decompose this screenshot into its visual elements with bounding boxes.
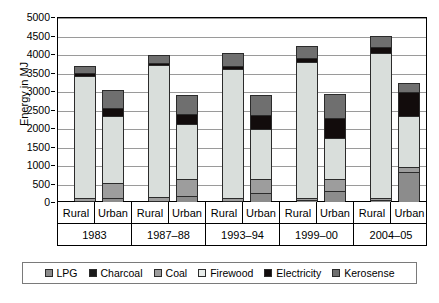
y-axis-tick (51, 54, 55, 55)
bar-segment[interactable] (223, 54, 243, 66)
x-axis-group-label: 1987–88 (132, 224, 206, 245)
stacked-bar[interactable] (222, 53, 244, 201)
legend-swatch-icon (198, 269, 206, 277)
y-axis-tick (51, 147, 55, 148)
x-axis-group-label: 2004–05 (354, 224, 428, 245)
bar-segment[interactable] (251, 115, 271, 128)
legend-label: LPG (57, 267, 78, 279)
y-axis-tick-label: 3000 (27, 86, 50, 96)
bar-segment[interactable] (297, 47, 317, 57)
legend-label: Coal (166, 267, 188, 279)
bar-segment[interactable] (399, 116, 419, 167)
y-axis-tick-label: 4500 (27, 31, 50, 41)
x-axis-category-label: Urban (169, 202, 206, 223)
bar-segment[interactable] (75, 76, 95, 198)
x-axis-group-label: 1999–00 (280, 224, 354, 245)
x-axis-category-label: Rural (132, 202, 169, 223)
chart-legend: LPGCharcoalCoalFirewoodElectricityKerose… (22, 262, 417, 284)
x-axis-category-label: Rural (206, 202, 243, 223)
stacked-bar[interactable] (324, 94, 346, 201)
stacked-bar[interactable] (148, 55, 170, 201)
legend-swatch-icon (89, 269, 97, 277)
legend-label: Charcoal (101, 267, 143, 279)
legend-item[interactable]: Kerosense (332, 267, 394, 279)
bar-segment[interactable] (177, 114, 197, 124)
y-axis-tick-labels: 5000450040003500300025002000150010005000 (0, 17, 55, 202)
y-axis-tick-label: 2500 (27, 105, 50, 115)
y-axis-tick (51, 184, 55, 185)
bar-segment[interactable] (223, 69, 243, 198)
bar-segment[interactable] (251, 129, 271, 179)
bar-segment[interactable] (399, 84, 419, 93)
bar-segment[interactable] (251, 179, 271, 193)
bar-segment[interactable] (177, 96, 197, 114)
legend-item[interactable]: Coal (154, 267, 188, 279)
y-axis-tick (51, 202, 55, 203)
stacked-bar[interactable] (102, 90, 124, 201)
y-axis-tick (51, 110, 55, 111)
bar-segment[interactable] (149, 65, 169, 197)
x-axis-category-label: Urban (95, 202, 132, 223)
y-axis-tick-label: 4000 (27, 49, 50, 59)
stacked-bar[interactable] (74, 66, 96, 201)
stacked-bar[interactable] (250, 95, 272, 201)
bar-segment[interactable] (325, 118, 345, 139)
legend-item[interactable]: Charcoal (89, 267, 143, 279)
y-axis-tick-label: 2000 (27, 123, 50, 133)
y-axis-tick-label: 500 (32, 179, 50, 189)
x-axis-group-label: 1983 (58, 224, 132, 245)
bar-segment[interactable] (371, 53, 391, 198)
y-axis-tick (51, 91, 55, 92)
bar-series-container (58, 18, 426, 201)
x-axis-group-label: 1993–94 (206, 224, 280, 245)
stacked-bar[interactable] (398, 83, 420, 201)
x-axis-category-label: Urban (243, 202, 280, 223)
y-axis-tick (51, 165, 55, 166)
bar-segment[interactable] (251, 96, 271, 115)
x-axis-category-label: Rural (354, 202, 391, 223)
legend-label: Electricity (276, 267, 321, 279)
stacked-bar[interactable] (176, 95, 198, 201)
y-axis-tick-label: 5000 (27, 12, 50, 22)
y-axis-tick-label: 1500 (27, 142, 50, 152)
x-axis-category-label: Urban (317, 202, 354, 223)
bar-segment[interactable] (325, 138, 345, 178)
legend-swatch-icon (154, 269, 162, 277)
bar-segment[interactable] (177, 179, 197, 196)
x-axis-category-label: Urban (391, 202, 428, 223)
bar-segment[interactable] (399, 92, 419, 116)
y-axis-tick-label: 0 (44, 197, 50, 207)
bar-segment[interactable] (325, 95, 345, 118)
bar-segment[interactable] (325, 191, 345, 202)
bar-segment[interactable] (297, 62, 317, 198)
y-axis-tick (51, 128, 55, 129)
bar-segment[interactable] (177, 124, 197, 179)
bar-segment[interactable] (399, 172, 419, 202)
bar-segment[interactable] (103, 183, 123, 198)
bar-segment[interactable] (149, 56, 169, 63)
bar-segment[interactable] (325, 179, 345, 191)
legend-swatch-icon (332, 269, 340, 277)
bar-segment[interactable] (103, 108, 123, 115)
stacked-bar[interactable] (370, 36, 392, 201)
y-axis-tick (51, 73, 55, 74)
y-axis-tick-label: 3500 (27, 68, 50, 78)
x-axis-category-label: Rural (280, 202, 317, 223)
y-axis-tick-label: 1000 (27, 160, 50, 170)
legend-swatch-icon (264, 269, 272, 277)
y-axis-tick (51, 17, 55, 18)
legend-item[interactable]: Electricity (264, 267, 321, 279)
x-axis-group-row: 19831987–881993–941999–002004–05 (57, 224, 427, 246)
legend-label: Kerosense (344, 267, 394, 279)
chart-figure: Energy in MJ 500045004000350030002500200… (0, 0, 439, 303)
bar-segment[interactable] (251, 193, 271, 202)
legend-item[interactable]: LPG (45, 267, 78, 279)
bar-segment[interactable] (371, 37, 391, 47)
y-axis-tick (51, 36, 55, 37)
legend-item[interactable]: Firewood (198, 267, 253, 279)
bar-segment[interactable] (103, 116, 123, 184)
legend-swatch-icon (45, 269, 53, 277)
bar-segment[interactable] (103, 91, 123, 108)
legend-label: Firewood (210, 267, 253, 279)
stacked-bar[interactable] (296, 46, 318, 201)
